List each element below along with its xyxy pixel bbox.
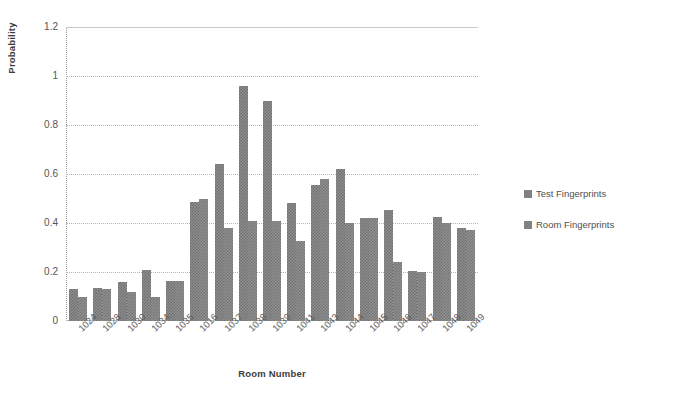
y-tick-label: 0.2	[18, 266, 58, 277]
y-tick-label: 0.6	[18, 168, 58, 179]
bar	[69, 289, 78, 321]
plot-area	[66, 27, 478, 321]
bar-group	[260, 27, 284, 321]
bar	[311, 185, 320, 321]
bar	[215, 164, 224, 321]
x-axis-tick-labels: 1024102810301034103510161037103810391041…	[66, 322, 478, 368]
bar	[272, 221, 281, 321]
bar	[369, 218, 378, 321]
legend-swatch-icon	[524, 221, 532, 229]
bar	[345, 223, 354, 321]
legend-label: Room Fingerprints	[536, 219, 614, 230]
bar	[442, 223, 451, 321]
bar-group	[114, 27, 138, 321]
legend-label: Test Fingerprints	[536, 188, 606, 199]
bar-group	[454, 27, 478, 321]
legend-item-room-fingerprints: Room Fingerprints	[524, 219, 674, 230]
y-tick-label: 0.4	[18, 217, 58, 228]
bar-group	[430, 27, 454, 321]
bar	[224, 228, 233, 321]
bar	[433, 217, 442, 321]
bar-group	[236, 27, 260, 321]
bar	[457, 228, 466, 321]
bar-group	[139, 27, 163, 321]
y-tick-label: 0.8	[18, 119, 58, 130]
bar-group	[211, 27, 235, 321]
bar-group	[187, 27, 211, 321]
bar-group	[308, 27, 332, 321]
bar	[360, 218, 369, 321]
x-axis-title: Room Number	[66, 368, 478, 379]
y-tick-label: 1.2	[18, 21, 58, 32]
legend-swatch-icon	[524, 190, 532, 198]
bar	[384, 210, 393, 321]
bar-chart: Probability 00.20.40.60.811.2 1024102810…	[0, 0, 676, 395]
bar-group	[284, 27, 308, 321]
bar	[248, 221, 257, 321]
y-tick-label: 1	[18, 70, 58, 81]
bar	[466, 230, 475, 321]
bar	[199, 199, 208, 322]
bar	[417, 272, 426, 321]
bar	[320, 179, 329, 321]
bar-group	[66, 27, 90, 321]
bar	[190, 202, 199, 321]
bar-group	[405, 27, 429, 321]
bar	[263, 101, 272, 322]
y-tick-label: 0	[18, 315, 58, 326]
bar-group	[381, 27, 405, 321]
bar-group	[163, 27, 187, 321]
bar-group	[357, 27, 381, 321]
bar-group	[333, 27, 357, 321]
legend-item-test-fingerprints: Test Fingerprints	[524, 188, 674, 199]
bar	[239, 86, 248, 321]
bar	[287, 203, 296, 321]
bar	[393, 262, 402, 321]
bar	[296, 241, 305, 321]
chart-legend: Test Fingerprints Room Fingerprints	[524, 188, 674, 250]
y-axis-title: Probability	[6, 0, 17, 118]
bar	[336, 169, 345, 321]
bar-series-container	[66, 27, 478, 321]
bar	[408, 271, 417, 321]
bar-group	[90, 27, 114, 321]
